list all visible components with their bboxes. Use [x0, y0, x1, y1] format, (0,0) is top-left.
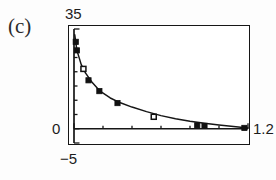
x-axis-max-label: 1.2 [253, 120, 274, 137]
y-axis-zero-label: 0 [52, 120, 60, 137]
y-axis-max-label: 35 [65, 5, 82, 22]
y-axis-min-label: −5 [60, 150, 77, 167]
figure-panel: (c) 35 0 −5 1.2 [0, 0, 276, 180]
plot-canvas [69, 26, 251, 146]
plot-frame [68, 25, 250, 145]
data-markers [73, 39, 247, 130]
panel-label: (c) [8, 14, 31, 39]
fitted-curve [75, 35, 248, 128]
